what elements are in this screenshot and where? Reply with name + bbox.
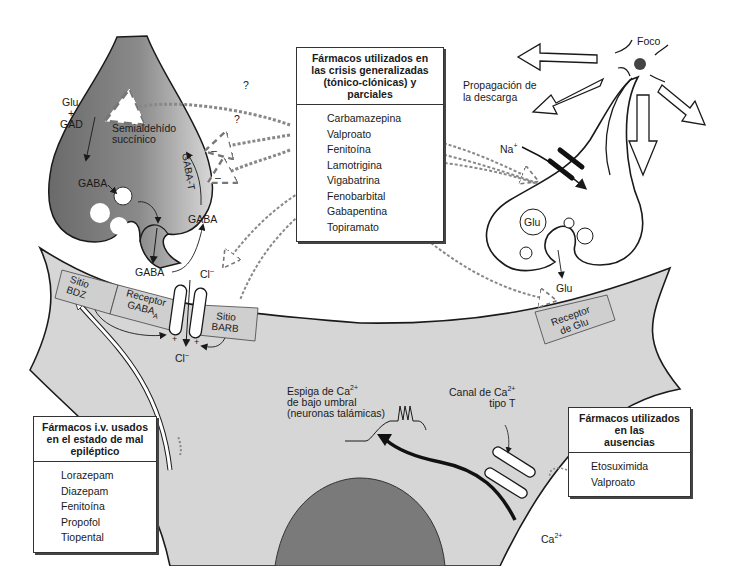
box-ausencias: Fármacos utilizados en las ausencias Eto… (568, 407, 691, 497)
drug-item: Etosuximida (591, 459, 690, 475)
box-mal-epileptico-title: Fármacos i.v. usados en el estado de mal… (34, 417, 156, 462)
gaba-vesicle (114, 187, 132, 205)
label-question-2: ? (234, 113, 240, 125)
box-ausencias-title: Fármacos utilizados en las ausencias (569, 408, 690, 453)
label-propagacion-1: Propagación de (463, 79, 537, 91)
label-plus-right: + (194, 336, 199, 348)
label-minus-2: – (215, 171, 221, 183)
drug-item: Fenitoína (61, 499, 156, 515)
drug-item: Propofol (61, 515, 156, 531)
vesicle (520, 247, 532, 259)
label-canal-ca: Canal de Ca2+ tipo T (449, 383, 515, 409)
drug-item: Tiopental (61, 530, 156, 546)
label-sitio-barb: SitioBARB (211, 310, 240, 334)
label-gaba-inside: GABA (78, 177, 107, 189)
label-espiga-ca: Espiga de Ca2+ de bajo umbral (neuronas … (287, 382, 385, 419)
vesicle (577, 228, 593, 244)
box-crisis-generalizadas: Fármacos utilizados en las crisis genera… (296, 47, 444, 242)
label-propagacion-2: la descarga (463, 91, 517, 103)
drug-item: Carbamazepina (327, 111, 443, 127)
drug-item: Lamotrigina (327, 158, 443, 174)
label-cl-bottom: Cl– (175, 349, 189, 364)
label-succinico: succínico (112, 133, 156, 145)
drug-item: Valproato (591, 475, 690, 491)
label-plus-left: + (172, 333, 177, 345)
label-gaba-cleft: GABA (135, 266, 164, 278)
box-crisis-title: Fármacos utilizados en las crisis genera… (297, 48, 443, 105)
drug-item: Fenitoína (327, 142, 443, 158)
label-na: Na+ (500, 140, 518, 155)
drug-item: Fenobarbital (327, 189, 443, 205)
vesicle (110, 217, 128, 235)
drug-item: Gabapentina (327, 204, 443, 220)
vesicle (90, 203, 110, 223)
label-gaba-right: GABA (188, 213, 217, 225)
label-glu-release: Glu (556, 282, 572, 294)
drug-item: Lorazepam (61, 468, 156, 484)
label-minus-1: – (211, 144, 217, 156)
drug-item: Diazepam (61, 484, 156, 500)
label-cl-top: Cl– (200, 265, 214, 280)
drug-item: Valproato (327, 127, 443, 143)
label-glu-vesicle: Glu (524, 216, 540, 228)
drug-item: Vigabatrina (327, 173, 443, 189)
label-foco: Foco (637, 35, 660, 47)
vesicle (564, 218, 574, 228)
label-gad: GAD (60, 118, 83, 130)
label-question-1: ? (243, 79, 249, 91)
box-mal-epileptico: Fármacos i.v. usados en el estado de mal… (33, 416, 157, 553)
label-ca-ion: Ca2+ (541, 530, 562, 545)
drug-item: Topiramato (327, 220, 443, 236)
